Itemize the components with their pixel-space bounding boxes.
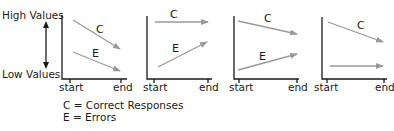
diagram-canvas: High Values Low Values C E start end C E… bbox=[0, 0, 394, 131]
panel-1-start-label: start bbox=[59, 81, 83, 93]
panel-2-e-label: E bbox=[172, 42, 179, 55]
panel-2-end-label: end bbox=[199, 81, 219, 93]
panel-3-start-label: start bbox=[229, 81, 253, 93]
panel-2-axes bbox=[147, 16, 212, 79]
low-values-label: Low Values bbox=[2, 68, 60, 80]
panel-4: C start end bbox=[314, 17, 394, 93]
panel-2-start-label: start bbox=[143, 81, 167, 93]
panel-3-axes bbox=[234, 16, 299, 79]
panel-1-c-label: C bbox=[96, 23, 104, 36]
panel-1: C E start end bbox=[59, 15, 133, 93]
legend-errors: E = Errors bbox=[63, 111, 116, 123]
panel-1-end-label: end bbox=[113, 81, 133, 93]
panel-3-c-label: C bbox=[264, 12, 272, 25]
panel-2-c-label: C bbox=[170, 8, 178, 21]
panel-2: C E start end bbox=[143, 8, 219, 93]
high-values-label: High Values bbox=[2, 9, 64, 21]
panel-3-end-label: end bbox=[288, 81, 308, 93]
panel-4-axes bbox=[322, 17, 387, 79]
panel-2-e-arrow bbox=[158, 42, 207, 67]
panel-4-c-label: C bbox=[357, 19, 365, 32]
panel-3: C E start end bbox=[229, 12, 308, 93]
panel-4-c-arrow bbox=[328, 22, 383, 42]
value-range-arrow-icon bbox=[43, 21, 49, 69]
panel-3-e-label: E bbox=[259, 50, 266, 63]
panel-4-start-label: start bbox=[314, 81, 338, 93]
legend-correct-responses: C = Correct Responses bbox=[63, 99, 183, 111]
panel-3-e-arrow bbox=[238, 54, 297, 70]
panel-1-e-label: E bbox=[92, 47, 99, 60]
panel-4-end-label: end bbox=[375, 81, 394, 93]
